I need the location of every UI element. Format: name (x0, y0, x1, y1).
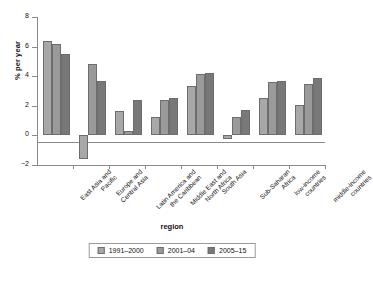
bar (196, 74, 205, 135)
chart-legend: 1991–20002001–042005–15 (89, 243, 256, 258)
plot-area: −202468 (37, 17, 325, 165)
bar (277, 81, 286, 135)
legend-label: 2005–15 (219, 247, 246, 254)
y-tick-label: −2 (21, 160, 29, 167)
y-tick-label: 6 (25, 42, 29, 49)
bar-group (259, 17, 286, 165)
legend-swatch-icon (157, 247, 164, 254)
x-category-label: Sub-SaharanAfrica (258, 168, 296, 206)
x-axis-category-labels: East Asia andPacificEurope andCentral As… (37, 168, 325, 220)
bar (79, 135, 88, 159)
y-tick: −2 (32, 165, 37, 166)
y-axis-label: % per year (13, 16, 22, 106)
bar (160, 100, 169, 136)
bar (313, 78, 322, 136)
bar (295, 105, 304, 135)
y-tick: 2 (32, 106, 37, 107)
bar-group (295, 17, 322, 165)
bar (115, 111, 124, 135)
y-tick: 6 (32, 47, 37, 48)
bar (88, 64, 97, 136)
bar (43, 41, 52, 136)
y-tick: 4 (32, 76, 37, 77)
x-category-label: middle-incomecountries (332, 168, 373, 209)
x-category-label: East Asia andPacific (79, 168, 118, 207)
legend-item[interactable]: 1991–2000 (98, 247, 144, 254)
bar (187, 86, 196, 136)
bar (259, 98, 268, 135)
x-category-label: Europe andCentral Asia (113, 168, 149, 204)
y-tick-label: 8 (25, 12, 29, 19)
bar (52, 44, 61, 136)
legend-swatch-icon (98, 247, 105, 254)
y-tick: 0 (32, 135, 37, 136)
bar (241, 110, 250, 135)
bar (232, 117, 241, 136)
bar-group (115, 17, 142, 165)
y-tick-label: 2 (25, 101, 29, 108)
y-tick-label: 4 (25, 71, 29, 78)
bar (97, 81, 106, 135)
bar-group (151, 17, 178, 165)
bar (268, 82, 277, 135)
x-tick (325, 165, 326, 169)
bar (223, 135, 232, 139)
bar (304, 84, 313, 136)
bar-group (223, 17, 250, 165)
legend-item[interactable]: 2005–15 (208, 247, 246, 254)
bar-group (79, 17, 106, 165)
legend-item[interactable]: 2001–04 (157, 247, 195, 254)
bar-group (43, 17, 70, 165)
legend-label: 2001–04 (168, 247, 195, 254)
y-tick: 8 (32, 17, 37, 18)
bar-group (187, 17, 214, 165)
legend-swatch-icon (208, 247, 215, 254)
bar (169, 98, 178, 135)
bar (133, 100, 142, 136)
x-axis-label: region (0, 222, 344, 231)
bar (151, 117, 160, 136)
bar (61, 54, 70, 135)
x-category-label: low-incomecountries (293, 168, 327, 202)
y-tick-label: 0 (25, 130, 29, 137)
bar (205, 73, 214, 135)
legend-label: 1991–2000 (109, 247, 144, 254)
bar (124, 131, 133, 135)
